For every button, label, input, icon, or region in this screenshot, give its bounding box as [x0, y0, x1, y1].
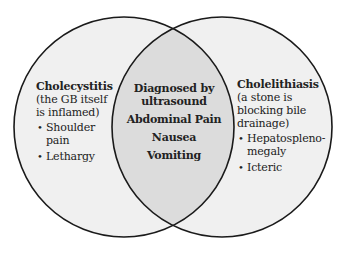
right-set-title: Cholelithiasis	[237, 78, 333, 91]
right-set-subtitle-line-3: drainage)	[237, 117, 333, 130]
overlap-line-4: Nausea	[118, 131, 230, 144]
overlap-line-3: Abdominal Pain	[118, 113, 230, 126]
right-set-subtitle-line-2: blocking bile	[237, 104, 333, 117]
bullet-text: pain	[46, 134, 126, 147]
overlap-line-1: Diagnosed by	[118, 82, 230, 95]
list-item: Lethargy	[36, 150, 126, 163]
bullet-text: Icteric	[247, 161, 333, 174]
bullet-text: Lethargy	[46, 150, 126, 163]
left-set-bullets: Shoulder pain Lethargy	[36, 121, 126, 163]
list-item: Hepatospleno- megaly	[237, 132, 333, 158]
venn-diagram: Cholecystitis (the GB itself is inflamed…	[0, 0, 345, 253]
left-set-subtitle-line-2: is inflamed)	[36, 106, 126, 119]
bullet-text: Shoulder	[46, 121, 126, 134]
right-set-bullets: Hepatospleno- megaly Icteric	[237, 132, 333, 174]
left-set-title: Cholecystitis	[36, 80, 126, 93]
overlap-line-2: ultrasound	[118, 95, 230, 108]
list-item: Icteric	[237, 161, 333, 174]
left-set-label: Cholecystitis (the GB itself is inflamed…	[36, 80, 126, 166]
bullet-text: megaly	[247, 145, 333, 158]
bullet-text: Hepatospleno-	[247, 132, 333, 145]
left-set-subtitle-line-1: (the GB itself	[36, 93, 126, 106]
list-item: Shoulder pain	[36, 121, 126, 147]
right-set-subtitle-line-1: (a stone is	[237, 91, 333, 104]
overlap-label: Diagnosed by ultrasound Abdominal Pain N…	[118, 82, 230, 162]
overlap-line-5: Vomiting	[118, 149, 230, 162]
right-set-label: Cholelithiasis (a stone is blocking bile…	[237, 78, 333, 177]
